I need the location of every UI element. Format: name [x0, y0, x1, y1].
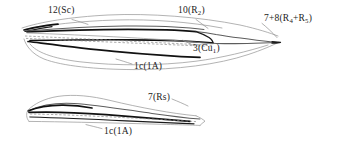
hindwing-apex: [196, 116, 205, 126]
leader-line-r4r5: [262, 23, 277, 37]
label-sc-vein: Sc: [61, 5, 71, 15]
hindwing-group: [27, 95, 205, 125]
label-r4r5-paren-close: ): [309, 13, 312, 23]
label-r2-paren-close: ): [201, 5, 204, 15]
label-vein-1a-forewing: 1c(1A): [134, 62, 162, 72]
label-rs-vein: Rs: [156, 92, 166, 102]
label-cu1-subscript: 1: [213, 47, 217, 54]
label-cu1-vein: Cu: [201, 43, 213, 53]
label-vein-r2: 10(R2): [178, 6, 205, 16]
label-1a-hind-number: 1c: [104, 126, 113, 136]
label-r4r5-number: 7+8: [264, 13, 279, 23]
label-vein-r4-r5: 7+8(R4+R5): [264, 14, 312, 24]
leader-line-1a-forewing: [116, 59, 132, 64]
label-1a-fore-number: 1c: [134, 61, 143, 71]
label-1a-fore-vein: 1A: [147, 61, 159, 71]
label-1a-hind-paren-close: ): [129, 126, 132, 136]
leader-line-1a-hindwing: [86, 125, 102, 129]
forewing-discal-cell-upper: [27, 29, 196, 32]
forewing-vein-r4-r5: [213, 42, 278, 43]
label-r4r5-subscript-4: 4: [289, 17, 293, 24]
label-r2-subscript: 2: [198, 9, 202, 16]
label-1a-hind-vein: 1A: [117, 126, 129, 136]
leader-line-rs: [172, 99, 188, 106]
label-r2-vein: R: [191, 5, 198, 15]
label-r2-number: 10: [178, 5, 188, 15]
label-rs-paren-close: ): [167, 92, 170, 102]
hindwing-basal-streak: [28, 105, 92, 111]
label-sc-paren-close: ): [71, 5, 74, 15]
label-vein-rs: 7(Rs): [148, 93, 170, 103]
forewing-vein-cubital-bold: [28, 42, 200, 58]
forewing-costal-margin: [22, 14, 278, 36]
label-vein-sc: 12(Sc): [48, 6, 75, 16]
label-cu1-paren-close: ): [216, 43, 219, 53]
label-1a-fore-paren-close: ): [159, 61, 162, 71]
wing-venation-figure: 12(Sc) 10(R2) 7+8(R4+R5) 3(Cu1) 1c(1A) 7…: [0, 0, 340, 147]
label-sc-number: 12: [48, 5, 58, 15]
label-vein-cu1: 3(Cu1): [193, 44, 220, 54]
leader-line-sc: [72, 20, 88, 25]
label-vein-1a-hindwing: 1c(1A): [104, 127, 132, 137]
label-r4r5-subscript-5: 5: [305, 17, 309, 24]
